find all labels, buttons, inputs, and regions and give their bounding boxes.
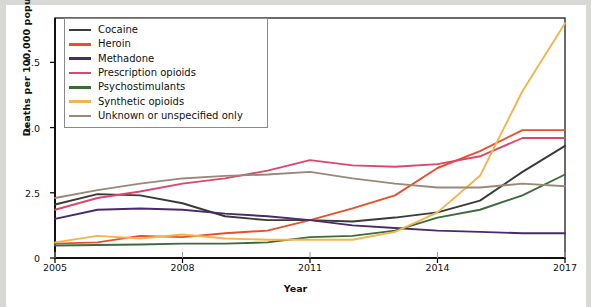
legend-swatch-synthetic-opioids xyxy=(69,100,91,103)
legend-label-methadone: Methadone xyxy=(98,54,154,64)
legend-label-psychostimulants: Psychostimulants xyxy=(98,82,185,92)
legend-label-heroin: Heroin xyxy=(98,39,131,49)
x-tick-label: 2005 xyxy=(43,262,67,273)
legend-item-prescription-opioids: Prescription opioids xyxy=(69,66,262,80)
legend-label-cocaine: Cocaine xyxy=(98,25,138,35)
x-tick-label: 2014 xyxy=(425,262,449,273)
legend-item-heroin: Heroin xyxy=(69,37,262,51)
legend-swatch-prescription-opioids xyxy=(69,72,91,75)
legend-swatch-cocaine xyxy=(69,29,91,32)
legend-item-psychostimulants: Psychostimulants xyxy=(69,80,262,94)
x-tick-label: 2011 xyxy=(298,262,322,273)
x-axis-label: Year xyxy=(0,283,591,294)
legend-swatch-unknown xyxy=(69,115,91,118)
legend-swatch-psychostimulants xyxy=(69,86,91,89)
legend-label-unknown: Unknown or unspecified only xyxy=(98,111,243,121)
legend-item-methadone: Methadone xyxy=(69,52,262,66)
chart-figure: Deaths per 100,000 population 02.55.07.5… xyxy=(0,0,591,307)
legend-item-cocaine: Cocaine xyxy=(69,23,262,37)
legend-label-prescription-opioids: Prescription opioids xyxy=(98,68,196,78)
x-tick-label: 2017 xyxy=(553,262,577,273)
legend-swatch-heroin xyxy=(69,43,91,46)
legend-label-synthetic-opioids: Synthetic opioids xyxy=(98,97,184,107)
chart-legend: Cocaine Heroin Methadone Prescription op… xyxy=(64,18,268,128)
legend-swatch-methadone xyxy=(69,57,91,60)
x-tick-label: 2008 xyxy=(170,262,194,273)
legend-item-synthetic-opioids: Synthetic opioids xyxy=(69,94,262,108)
legend-item-unknown: Unknown or unspecified only xyxy=(69,109,262,123)
